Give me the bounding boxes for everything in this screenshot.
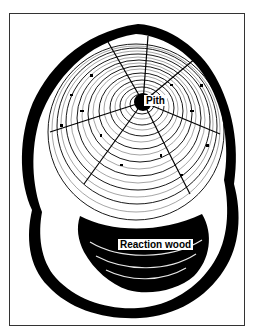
reaction-wood-label: Reaction wood <box>118 239 193 250</box>
pith-label: Pith <box>144 95 167 106</box>
log-cross-section-illustration <box>10 14 245 326</box>
figure-frame: Pith Reaction wood <box>9 13 245 326</box>
